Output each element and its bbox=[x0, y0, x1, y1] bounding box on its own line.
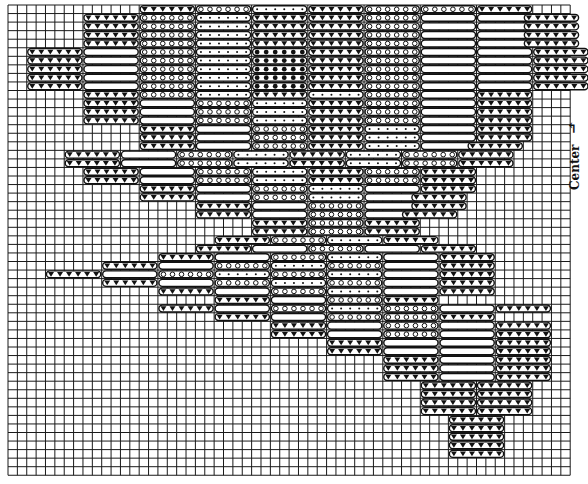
stitch-tri bbox=[309, 40, 363, 47]
stitch-empty bbox=[384, 288, 438, 295]
stitch-circ bbox=[309, 228, 363, 235]
stitch-empty bbox=[84, 74, 138, 81]
center-arrow-icon: ↰ bbox=[566, 120, 578, 136]
stitch-tri bbox=[534, 49, 588, 56]
stitch-circ bbox=[365, 74, 419, 81]
stitch-tri bbox=[140, 185, 194, 192]
stitch-dot bbox=[196, 66, 250, 73]
stitch-tri bbox=[496, 339, 550, 346]
stitch-circ bbox=[253, 134, 307, 141]
stitch-circ bbox=[253, 185, 307, 192]
stitch-empty bbox=[196, 134, 250, 141]
stitch-tri bbox=[65, 151, 119, 158]
stitch-tri bbox=[84, 117, 138, 124]
stitch-tri bbox=[253, 220, 307, 227]
stitch-circ bbox=[196, 177, 250, 184]
stitch-tri bbox=[196, 202, 250, 209]
stitch-circ bbox=[365, 6, 419, 13]
stitch-empty bbox=[478, 83, 532, 90]
stitch-circ bbox=[384, 314, 438, 321]
stitch-circ bbox=[309, 245, 363, 252]
stitch-dot bbox=[234, 151, 288, 158]
stitch-empty bbox=[440, 348, 494, 355]
stitch-tri bbox=[449, 416, 503, 423]
stitch-circ bbox=[253, 194, 307, 201]
stitch-circ bbox=[365, 177, 419, 184]
stitch-tri bbox=[309, 49, 363, 56]
stitch-tri bbox=[421, 168, 475, 175]
stitch-circ bbox=[309, 202, 363, 209]
stitch-circ bbox=[309, 211, 363, 218]
stitch-empty bbox=[478, 40, 532, 47]
stitch-empty bbox=[478, 14, 532, 21]
stitch-empty bbox=[478, 66, 532, 73]
stitch-tri bbox=[440, 254, 494, 261]
stitch-dot bbox=[196, 14, 250, 21]
stitch-empty bbox=[215, 254, 269, 261]
stitch-empty bbox=[440, 322, 494, 329]
stitch-empty bbox=[84, 66, 138, 73]
stitch-tri bbox=[496, 373, 550, 380]
stitch-tri bbox=[84, 23, 138, 30]
stitch-dot bbox=[328, 254, 382, 261]
stitch-dot bbox=[253, 117, 307, 124]
stitch-tri bbox=[271, 331, 325, 338]
stitch-tri bbox=[328, 348, 382, 355]
stitch-dot bbox=[253, 6, 307, 13]
stitch-tri bbox=[103, 279, 157, 286]
stitch-circ bbox=[365, 91, 419, 98]
stitch-tri bbox=[290, 160, 344, 167]
stitch-tri bbox=[309, 23, 363, 30]
stitch-circ bbox=[365, 108, 419, 115]
stitch-dot bbox=[253, 168, 307, 175]
stitch-tri bbox=[384, 237, 438, 244]
stitch-empty bbox=[328, 331, 382, 338]
stitch-tri bbox=[309, 31, 363, 38]
stitch-tri bbox=[421, 408, 475, 415]
stitch-tri bbox=[309, 14, 363, 21]
stitch-empty bbox=[478, 49, 532, 56]
stitch-tri bbox=[140, 126, 194, 133]
stitch-dot bbox=[196, 40, 250, 47]
stitch-tri bbox=[440, 288, 494, 295]
stitch-tri bbox=[478, 382, 532, 389]
stitch-empty bbox=[421, 49, 475, 56]
stitch-empty bbox=[421, 66, 475, 73]
stitch-circ bbox=[253, 143, 307, 150]
stitch-circ bbox=[328, 279, 382, 286]
stitch-circ bbox=[140, 57, 194, 64]
stitch-circ bbox=[271, 288, 325, 295]
stitch-empty bbox=[140, 108, 194, 115]
stitch-circ bbox=[253, 126, 307, 133]
stitch-tri bbox=[384, 356, 438, 363]
stitch-empty bbox=[84, 83, 138, 90]
stitch-tri bbox=[534, 74, 588, 81]
stitch-tri bbox=[421, 245, 475, 252]
stitch-circ bbox=[271, 305, 325, 312]
stitch-empty bbox=[253, 202, 307, 209]
stitch-tri bbox=[478, 399, 532, 406]
stitch-dot bbox=[365, 134, 419, 141]
stitch-tri bbox=[328, 339, 382, 346]
stitch-tri bbox=[28, 57, 82, 64]
stitch-empty bbox=[478, 57, 532, 64]
stitch-circ bbox=[271, 237, 325, 244]
stitch-tri bbox=[440, 271, 494, 278]
stitch-circ bbox=[140, 74, 194, 81]
stitch-tri bbox=[309, 6, 363, 13]
center-label: Center bbox=[568, 145, 582, 190]
stitch-dot bbox=[309, 91, 363, 98]
stitch-circ bbox=[178, 151, 232, 158]
stitch-circ bbox=[140, 91, 194, 98]
stitch-empty bbox=[140, 117, 194, 124]
stitch-dot bbox=[253, 177, 307, 184]
stitch-empty bbox=[421, 134, 475, 141]
stitch-empty bbox=[271, 314, 325, 321]
stitch-tri bbox=[84, 168, 138, 175]
stitch-dot bbox=[196, 83, 250, 90]
stitch-tri bbox=[159, 254, 213, 261]
stitch-circ bbox=[271, 271, 325, 278]
stitch-tri bbox=[534, 83, 588, 90]
stitch-circ bbox=[215, 262, 269, 269]
stitch-circ bbox=[365, 57, 419, 64]
